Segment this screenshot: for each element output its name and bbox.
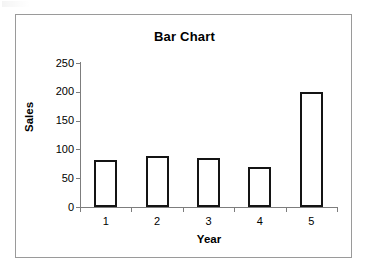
- x-axis-tick-label: 5: [286, 215, 337, 227]
- plot-area: [80, 63, 337, 207]
- x-axis-tick-label: 3: [183, 215, 234, 227]
- y-axis-tick: [76, 121, 80, 122]
- x-axis-title: Year: [80, 233, 338, 245]
- y-axis-tick-label: 50: [28, 173, 74, 184]
- bar: [197, 158, 220, 207]
- y-axis-tick: [76, 149, 80, 150]
- x-axis-tick: [131, 207, 132, 212]
- y-axis-tick: [76, 63, 80, 64]
- x-axis-tick-label: 2: [131, 215, 182, 227]
- x-axis-tick-label: 4: [234, 215, 285, 227]
- x-axis-tick-label: 1: [80, 215, 131, 227]
- x-axis-tick: [337, 207, 338, 212]
- x-axis-line: [80, 207, 338, 208]
- y-axis-tick-label: 250: [28, 58, 74, 69]
- scan-artifact: [2, 1, 30, 7]
- x-axis-tick: [234, 207, 235, 212]
- x-axis-tick: [183, 207, 184, 212]
- y-axis-tick: [76, 92, 80, 93]
- y-axis-tick: [76, 178, 80, 179]
- y-axis-tick-label: 0: [28, 202, 74, 213]
- x-axis-tick: [80, 207, 81, 212]
- bar: [146, 156, 169, 207]
- bar: [248, 167, 271, 207]
- x-axis-tick: [286, 207, 287, 212]
- y-axis-title: Sales: [23, 87, 35, 147]
- bar-chart-figure: Bar Chart 050100150200250 Sales Year 123…: [15, 14, 352, 258]
- bar: [300, 92, 323, 207]
- bar: [94, 160, 117, 207]
